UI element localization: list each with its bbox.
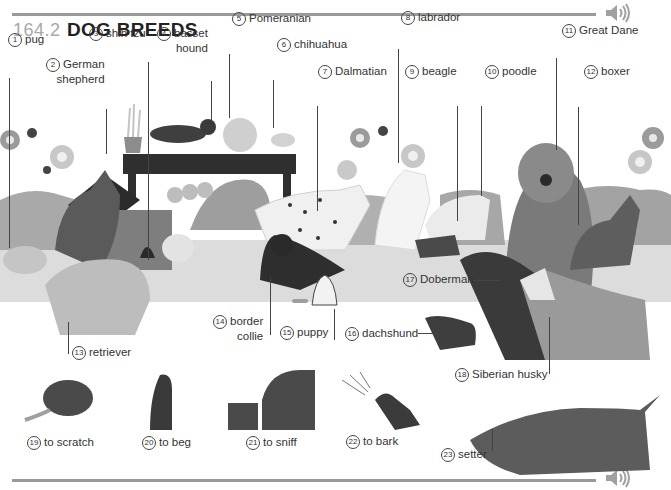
dogs-sniffing [228,370,315,430]
dog-begging [150,375,172,430]
leader-line [470,280,500,281]
label-puppy: 15puppy [280,325,328,340]
leader-line [148,62,149,260]
pug [3,246,47,274]
leader-line [492,429,493,451]
label-dachshund: 16dachshund [345,326,418,341]
leader-line [211,81,212,120]
leader-line [317,106,318,211]
leader-line [398,49,399,163]
label-to-scratch: 19to scratch [27,435,94,450]
dog-scratching [43,380,93,416]
label-to-sniff: 21to sniff [246,435,297,450]
leader-line [334,309,335,340]
leader-line [457,106,458,221]
label-to-bark: 22to bark [346,434,398,449]
label-retriever: 13retriever [72,345,131,360]
leader-line [549,317,550,374]
labrador [375,170,430,250]
label-labrador: 8labrador [401,10,460,25]
label-poodle: 10poodle [485,64,537,79]
dog-barking [375,393,420,430]
leader-line [273,80,274,128]
leader-line [9,78,10,248]
label-doberman: 17Doberman [403,272,474,287]
shih-tzu [162,234,194,262]
basset-hound [150,125,206,143]
leader-line [418,333,438,334]
label-german-shepherd: 2Germanshepherd [46,57,105,86]
leader-line [68,322,69,354]
label-setter: 23setter [441,447,487,462]
label-dalmatian: 7Dalmatian [318,64,387,79]
label-to-beg: 20to beg [142,435,191,450]
label-pug: 1pug [8,32,44,47]
leader-line [578,107,579,225]
pomeranian [223,118,257,152]
chihuahua [271,133,295,147]
leader-line [481,106,482,196]
label-great-dane: 11Great Dane [562,23,638,38]
leader-line [106,109,107,154]
label-chihuahua: 6chihuahua [277,37,347,52]
leader-line [229,54,230,118]
label-basset-hound: 4bassethound [157,26,208,55]
label-siberian-husky: 18Siberian husky [455,367,547,382]
beagle [415,235,460,258]
label-shih-tzu: 3shih tzu [89,26,146,41]
label-border-collie: 14bordercollie [213,314,263,343]
leader-line [556,58,557,150]
label-beagle: 9beagle [405,64,457,79]
label-boxer: 12boxer [584,64,630,79]
leader-line [270,277,271,335]
bone [292,299,308,303]
setter [470,395,660,475]
label-pomeranian: 5Pomeranian [232,11,311,26]
